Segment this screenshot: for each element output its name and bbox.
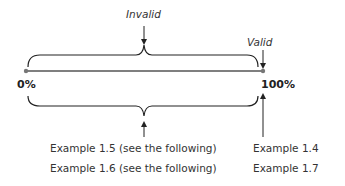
example-left-1: Example 1.5 (see the following) <box>50 142 217 154</box>
end-label: 100% <box>261 78 295 91</box>
examples-brace <box>28 96 258 116</box>
example-left-2: Example 1.6 (see the following) <box>50 162 217 174</box>
start-point <box>24 69 28 73</box>
example-right-1: Example 1.4 <box>253 142 319 154</box>
start-label: 0% <box>17 78 36 91</box>
invalid-label: Invalid <box>126 8 161 20</box>
end-point <box>261 69 265 73</box>
invalid-brace <box>28 45 258 67</box>
example-right-2: Example 1.7 <box>253 162 319 174</box>
valid-label: Valid <box>247 36 272 48</box>
diagram-canvas <box>0 0 345 186</box>
